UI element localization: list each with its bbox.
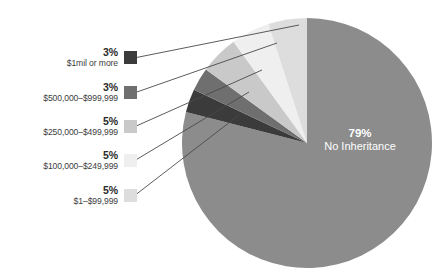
legend-item-text: 3% $1mil or more	[0, 46, 118, 69]
legend-item-text: 3% $500,000–$999,999	[0, 81, 118, 104]
legend-item-label: $250,000–$499,999	[0, 127, 118, 138]
legend-item-text: 5% $250,000–$499,999	[0, 115, 118, 138]
legend-item-percent: 5%	[0, 149, 118, 161]
legend-item-250k-499999[interactable]: 5% $250,000–$499,999	[0, 115, 140, 149]
legend-item-percent: 5%	[0, 115, 118, 127]
legend-swatch-icon	[124, 51, 137, 64]
pie-center-label: 79% No Inheritance	[300, 127, 420, 153]
legend-item-label: $1–$99,999	[0, 196, 118, 207]
legend-swatch-icon	[124, 154, 137, 167]
legend-swatch-icon	[124, 120, 137, 133]
legend-swatch-icon	[124, 189, 137, 202]
legend: 3% $1mil or more 3% $500,000–$999,999 5%…	[0, 0, 140, 273]
legend-item-label: $500,000–$999,999	[0, 93, 118, 104]
legend-item-500k-999999[interactable]: 3% $500,000–$999,999	[0, 81, 140, 115]
legend-item-percent: 5%	[0, 184, 118, 196]
legend-item-1-99999[interactable]: 5% $1–$99,999	[0, 184, 140, 218]
legend-item-1mil-or-more[interactable]: 3% $1mil or more	[0, 46, 140, 80]
legend-item-percent: 3%	[0, 46, 118, 58]
legend-item-text: 5% $1–$99,999	[0, 184, 118, 207]
pie-center-name: No Inheritance	[300, 140, 420, 153]
legend-item-percent: 3%	[0, 81, 118, 93]
legend-item-text: 5% $100,000–$249,999	[0, 149, 118, 172]
pie-center-percent: 79%	[300, 127, 420, 140]
legend-item-label: $1mil or more	[0, 58, 118, 69]
pie-chart: 3% $1mil or more 3% $500,000–$999,999 5%…	[0, 0, 439, 273]
legend-item-label: $100,000–$249,999	[0, 161, 118, 172]
legend-item-100k-249999[interactable]: 5% $100,000–$249,999	[0, 149, 140, 183]
legend-swatch-icon	[124, 86, 137, 99]
